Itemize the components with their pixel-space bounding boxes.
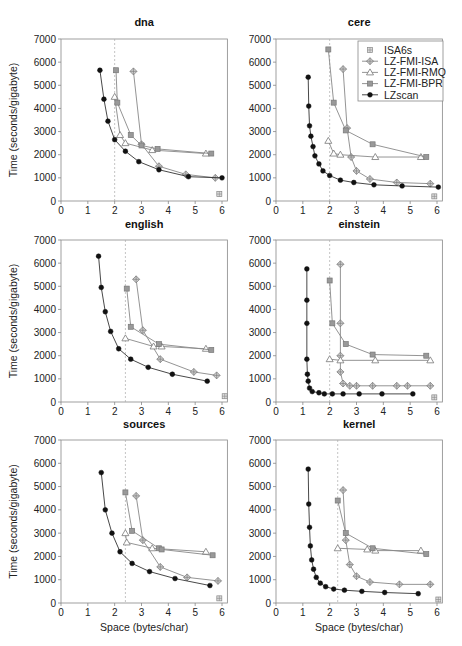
series-isa6s: [222, 394, 227, 399]
svg-text:2000: 2000: [249, 149, 272, 160]
svg-text:4: 4: [381, 406, 387, 417]
svg-text:4: 4: [166, 607, 172, 618]
svg-text:5000: 5000: [34, 481, 57, 492]
panel-title: cere: [348, 16, 371, 28]
series-lzscan: [96, 254, 209, 384]
series-lz-fmi-isa: [133, 492, 222, 584]
series-isa6s: [432, 395, 437, 400]
series-lz-fmi-rmq: [122, 530, 209, 555]
svg-text:2000: 2000: [34, 149, 57, 160]
svg-text:2000: 2000: [249, 551, 272, 562]
series-lz-fmi-rmq: [325, 137, 425, 159]
panel-dna: dna012345601000200030004000500060007000T…: [7, 16, 227, 216]
svg-text:6: 6: [434, 607, 440, 618]
svg-text:0: 0: [58, 205, 64, 216]
svg-text:LZ-FMI-RMQ: LZ-FMI-RMQ: [384, 66, 446, 78]
svg-text:4: 4: [166, 406, 172, 417]
svg-text:2: 2: [112, 406, 118, 417]
x-axis-title: Space (bytes/char): [315, 621, 403, 633]
svg-text:4000: 4000: [249, 103, 272, 114]
svg-text:1000: 1000: [34, 373, 57, 384]
svg-text:2: 2: [327, 607, 333, 618]
svg-text:3000: 3000: [34, 528, 57, 539]
y-axis-title: Time (seconds/gigabyte): [7, 264, 19, 379]
svg-text:2: 2: [112, 607, 118, 618]
svg-text:0: 0: [50, 598, 56, 609]
panel-cere: cere012345601000200030004000500060007000…: [249, 16, 446, 216]
svg-text:1000: 1000: [249, 172, 272, 183]
panel-title: einstein: [338, 218, 380, 230]
svg-text:0: 0: [58, 406, 64, 417]
svg-text:0: 0: [58, 607, 64, 618]
svg-text:3000: 3000: [249, 126, 272, 137]
svg-text:6: 6: [434, 205, 440, 216]
svg-text:ISA6s: ISA6s: [384, 44, 412, 56]
series-lz-fmi-bpr: [327, 278, 429, 358]
svg-text:7000: 7000: [34, 435, 57, 446]
panel-einstein: einstein01234560100020003000400050006000…: [249, 218, 443, 417]
series-lzscan: [306, 467, 421, 596]
svg-text:5: 5: [192, 205, 198, 216]
svg-text:7000: 7000: [34, 34, 57, 45]
series-lz-fmi-isa: [337, 261, 434, 390]
svg-text:0: 0: [265, 196, 271, 207]
svg-text:3000: 3000: [34, 327, 57, 338]
panel-english: english012345601000200030004000500060007…: [7, 218, 227, 417]
svg-text:6000: 6000: [34, 57, 57, 68]
svg-text:1: 1: [300, 607, 306, 618]
figure: dna012345601000200030004000500060007000T…: [0, 0, 462, 646]
svg-text:2: 2: [327, 406, 333, 417]
svg-text:4000: 4000: [249, 504, 272, 515]
panel-title: sources: [123, 418, 165, 430]
svg-text:1000: 1000: [34, 172, 57, 183]
series-lz-fmi-isa: [130, 68, 219, 181]
svg-text:5000: 5000: [249, 80, 272, 91]
series-lz-fmi-bpr: [124, 286, 214, 352]
svg-text:2000: 2000: [34, 551, 57, 562]
svg-text:0: 0: [265, 397, 271, 408]
svg-text:6: 6: [219, 406, 225, 417]
svg-text:5000: 5000: [34, 281, 57, 292]
svg-text:0: 0: [273, 607, 279, 618]
svg-text:5: 5: [407, 406, 413, 417]
y-axis-title: Time (seconds/gigabyte): [7, 464, 19, 579]
svg-text:6: 6: [219, 607, 225, 618]
svg-text:4000: 4000: [249, 304, 272, 315]
svg-text:7000: 7000: [249, 235, 272, 246]
panel-title: english: [125, 218, 164, 230]
svg-text:6000: 6000: [249, 57, 272, 68]
series-isa6s: [217, 596, 222, 601]
svg-text:2: 2: [327, 205, 333, 216]
svg-text:5: 5: [407, 607, 413, 618]
svg-text:7000: 7000: [34, 235, 57, 246]
svg-text:5: 5: [192, 607, 198, 618]
svg-text:LZ-FMI-BPR: LZ-FMI-BPR: [384, 77, 443, 89]
svg-text:7000: 7000: [249, 34, 272, 45]
series-isa6s: [217, 192, 222, 197]
series-lz-fmi-rmq: [122, 335, 209, 351]
svg-text:1: 1: [85, 406, 91, 417]
svg-text:6000: 6000: [249, 258, 272, 269]
svg-text:3000: 3000: [249, 327, 272, 338]
svg-text:1: 1: [300, 406, 306, 417]
svg-text:0: 0: [273, 406, 279, 417]
legend: ISA6sLZ-FMI-ISALZ-FMI-RMQLZ-FMI-BPRLZsca…: [358, 41, 446, 101]
panel-title: kernel: [343, 418, 375, 430]
svg-text:6: 6: [434, 406, 440, 417]
series-lz-fmi-bpr: [114, 68, 214, 156]
svg-text:2000: 2000: [34, 350, 57, 361]
svg-text:2: 2: [112, 205, 118, 216]
series-lzscan: [304, 267, 415, 397]
svg-text:5000: 5000: [34, 80, 57, 91]
svg-text:3: 3: [354, 607, 360, 618]
svg-text:4: 4: [381, 205, 387, 216]
svg-text:3: 3: [354, 406, 360, 417]
y-axis-title: Time (seconds/gigabyte): [7, 63, 19, 178]
panel-title: dna: [134, 16, 154, 28]
svg-text:4000: 4000: [34, 504, 57, 515]
svg-text:4: 4: [166, 205, 172, 216]
svg-text:7000: 7000: [249, 435, 272, 446]
svg-text:3: 3: [354, 205, 360, 216]
svg-text:0: 0: [50, 196, 56, 207]
svg-text:5000: 5000: [249, 481, 272, 492]
